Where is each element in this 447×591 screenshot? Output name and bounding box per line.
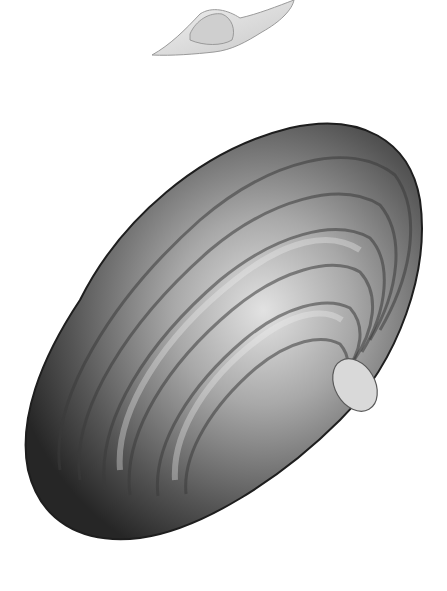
illustration-canvas xyxy=(0,0,447,591)
shell-illustration xyxy=(0,0,447,591)
shell-profile-view xyxy=(152,0,294,55)
shell-main-view xyxy=(26,124,422,540)
